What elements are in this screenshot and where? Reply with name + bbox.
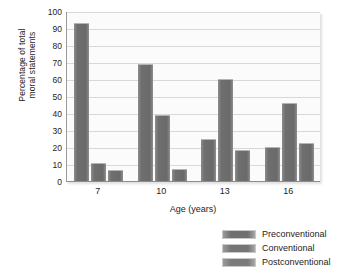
legend-swatch (222, 230, 256, 239)
bar (74, 23, 89, 181)
legend-item: Postconventional (222, 256, 331, 269)
bar (172, 169, 187, 181)
y-axis-tick-label: 10 (36, 161, 62, 170)
y-axis-title-line1: Percentage of total (17, 28, 28, 101)
bar-chart: Percentage of total moral statements 010… (0, 0, 352, 280)
legend-label: Preconventional (262, 229, 327, 240)
legend-item: Conventional (222, 242, 331, 255)
bar (299, 143, 314, 181)
y-axis-tick-label: 40 (36, 110, 62, 119)
plot-area (66, 12, 320, 182)
y-axis-tick-label: 0 (36, 178, 62, 187)
legend-swatch (222, 244, 256, 253)
legend-label: Postconventional (262, 257, 331, 268)
y-axis-tick-label: 20 (36, 144, 62, 153)
legend: PreconventionalConventionalPostconventio… (222, 228, 331, 269)
y-axis-tick-label: 70 (36, 59, 62, 68)
legend-item: Preconventional (222, 228, 331, 241)
legend-swatch (222, 258, 256, 267)
y-axis-tick-label: 90 (36, 25, 62, 34)
bar (138, 64, 153, 181)
y-axis-tick-label: 30 (36, 127, 62, 136)
x-axis-title: Age (years) (66, 204, 320, 214)
bar (235, 150, 250, 181)
y-axis-tick-label: 60 (36, 76, 62, 85)
y-axis-tick-labels: 0102030405060708090100 (36, 12, 62, 182)
y-axis-tick-label: 80 (36, 42, 62, 51)
y-axis-tick-label: 100 (36, 8, 62, 17)
bar (155, 115, 170, 181)
bars-layer (67, 12, 320, 182)
bar (201, 139, 216, 182)
legend-label: Conventional (262, 243, 315, 254)
bar (108, 170, 123, 181)
y-axis-tick-label: 50 (36, 93, 62, 102)
x-axis-tick-labels: 7101316 (66, 186, 320, 200)
x-axis-line (67, 181, 320, 182)
bar (218, 79, 233, 181)
x-axis-tick-label: 10 (156, 186, 166, 197)
x-axis-tick-label: 16 (283, 186, 293, 197)
bar (91, 163, 106, 181)
bar (282, 103, 297, 181)
bar (265, 147, 280, 181)
x-axis-tick-label: 13 (220, 186, 230, 197)
x-axis-tick-label: 7 (95, 186, 100, 197)
